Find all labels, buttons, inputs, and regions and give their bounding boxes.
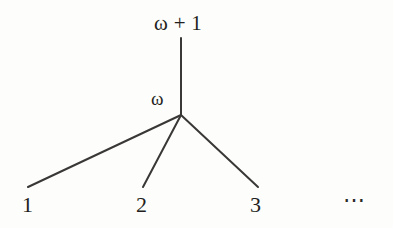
leaf-label-1: 1 xyxy=(22,194,33,216)
edge-branch-to-leaf-3 xyxy=(181,115,258,187)
root-label: ω + 1 xyxy=(154,13,202,34)
leaf-label-2: 2 xyxy=(136,194,147,216)
edge-branch-to-leaf-2 xyxy=(143,115,181,187)
leaf-label-3: 3 xyxy=(250,194,261,216)
ordinal-tree-figure: ω + 1 ω 1 2 3 ⋯ xyxy=(0,0,393,228)
edge-branch-to-leaf-1 xyxy=(28,115,181,187)
branch-node-label: ω xyxy=(151,89,164,108)
continuation-ellipsis: ⋯ xyxy=(343,189,367,211)
